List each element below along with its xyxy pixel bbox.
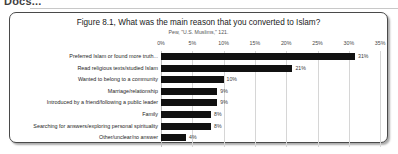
category-label: Other/unclear/no answer bbox=[99, 132, 158, 143]
x-tick-label-5: 5% bbox=[188, 39, 196, 47]
category-label-wrap: Wanted to belong to a community bbox=[10, 74, 161, 86]
category-label: Preferred Islam or found more truth... bbox=[69, 51, 158, 62]
category-label: Read religious texts/studied Islam bbox=[77, 63, 158, 74]
category-label-wrap: Family bbox=[10, 109, 161, 121]
bar-row: Marriage/relationship9% bbox=[10, 86, 387, 98]
bar bbox=[161, 134, 186, 141]
x-tick-label-20: 20% bbox=[281, 39, 292, 47]
bar bbox=[161, 123, 211, 130]
x-tick-label-10: 10% bbox=[218, 39, 229, 47]
figure-container: Figure 8.1, What was the main reason tha… bbox=[9, 12, 388, 143]
bar-value-label: 31% bbox=[358, 51, 368, 62]
bar-value-label: 9% bbox=[220, 86, 228, 97]
plot-area: 0%5%10%15%20%25%30%35% Preferred Islam o… bbox=[10, 39, 387, 142]
bar-value-label: 8% bbox=[214, 121, 222, 132]
category-label-wrap: Preferred Islam or found more truth... bbox=[10, 51, 161, 63]
x-axis-tick-labels: 0%5%10%15%20%25%30%35% bbox=[10, 39, 387, 51]
bar-row: Wanted to belong to a community10% bbox=[10, 74, 387, 86]
bar-row: Preferred Islam or found more truth...31… bbox=[10, 51, 387, 63]
bar-series: Preferred Islam or found more truth...31… bbox=[10, 51, 387, 147]
x-tick-label-35: 35% bbox=[375, 39, 386, 47]
x-tick-label-15: 15% bbox=[250, 39, 261, 47]
category-label: Searching for answers/exploring personal… bbox=[33, 121, 158, 132]
category-label: Wanted to belong to a community bbox=[78, 74, 158, 85]
category-label: Family bbox=[142, 109, 158, 120]
category-label-wrap: Read religious texts/studied Islam bbox=[10, 63, 161, 75]
category-label-wrap: Other/unclear/no answer bbox=[10, 132, 161, 144]
header-divider bbox=[30, 8, 398, 9]
category-label: Introduced by a friend/following a publi… bbox=[47, 97, 158, 108]
category-label-wrap: Introduced by a friend/following a publi… bbox=[10, 97, 161, 109]
bar-value-label: 21% bbox=[295, 63, 305, 74]
page-header-fragment: Docs... bbox=[4, 0, 41, 5]
bar bbox=[161, 88, 217, 95]
bar-row: Family8% bbox=[10, 109, 387, 121]
bar-value-label: 10% bbox=[227, 74, 237, 85]
bar bbox=[161, 111, 211, 118]
category-label: Marriage/relationship bbox=[108, 86, 158, 97]
bar bbox=[161, 99, 217, 106]
x-tick-label-0: 0% bbox=[157, 39, 165, 47]
bar-row: Read religious texts/studied Islam21% bbox=[10, 63, 387, 75]
x-tick-label-30: 30% bbox=[343, 39, 354, 47]
bar-row: Other/unclear/no answer4% bbox=[10, 132, 387, 144]
category-label-wrap: Marriage/relationship bbox=[10, 86, 161, 98]
bar-row: Introduced by a friend/following a publi… bbox=[10, 97, 387, 109]
chart-title: Figure 8.1, What was the main reason tha… bbox=[10, 18, 387, 28]
x-tick-label-25: 25% bbox=[312, 39, 323, 47]
chart-subtitle-source: Pew, "U.S. Muslims," 121. bbox=[10, 29, 387, 36]
category-label-wrap: Searching for answers/exploring personal… bbox=[10, 121, 161, 133]
bar bbox=[161, 53, 355, 60]
bar-value-label: 8% bbox=[214, 109, 222, 120]
bar-value-label: 9% bbox=[220, 97, 228, 108]
bar bbox=[161, 65, 292, 72]
bar bbox=[161, 76, 224, 83]
bar-row: Searching for answers/exploring personal… bbox=[10, 121, 387, 133]
bar-value-label: 4% bbox=[189, 132, 197, 143]
